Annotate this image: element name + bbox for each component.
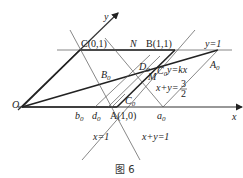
point-A0-label: A0 <box>209 59 220 72</box>
line-ykx-label: y=kx <box>166 64 188 75</box>
point-C-label: C(0,1) <box>81 38 107 50</box>
point-M-label: M <box>147 71 157 82</box>
figure-6-diagram: y x O C(0,1) N B(1,1) y=1 B0 D0 C0 M y=k… <box>0 0 243 178</box>
line-xy1-label: x+y=1 <box>141 131 169 142</box>
point-a0-label: a0 <box>157 110 166 123</box>
point-B0-label: B0 <box>101 69 111 82</box>
point-A-label: A(1,0) <box>110 110 136 122</box>
line-xy32-denominator: 2 <box>181 88 186 99</box>
point-C0-lower-label: C0 <box>125 95 136 108</box>
origin-label: O <box>12 99 19 110</box>
oblique-coordinate-diagram: y x O C(0,1) N B(1,1) y=1 B0 D0 C0 M y=k… <box>0 0 243 178</box>
x-axis-label: x <box>231 111 237 122</box>
point-d0-label: d0 <box>92 110 101 123</box>
line-xy32-label: x+y= <box>155 82 178 93</box>
line-x1-label: x=1 <box>92 131 109 142</box>
y-axis-label: y <box>103 11 109 22</box>
figure-caption: 图 6 <box>115 164 135 175</box>
line-y1-label: y=1 <box>204 38 221 49</box>
point-b0-label: b0 <box>75 110 84 123</box>
point-B-label: B(1,1) <box>146 38 172 50</box>
point-N-label: N <box>129 38 138 49</box>
